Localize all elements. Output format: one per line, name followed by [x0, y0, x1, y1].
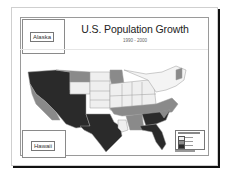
legend-item-medium — [178, 140, 200, 143]
map-subtitle: 1990 - 2000 — [80, 38, 190, 43]
map-title: U.S. Population Growth — [80, 23, 190, 35]
legend-item-low — [178, 136, 200, 139]
hawaii-label: Hawaii — [31, 141, 55, 151]
legend-title — [178, 132, 200, 134]
legend-swatch-high — [178, 144, 185, 149]
source-note — [175, 150, 195, 152]
map-legend — [175, 130, 205, 150]
hawaii-inset-frame: Hawaii — [22, 130, 66, 158]
alaska-label: Alaska — [30, 32, 54, 42]
legend-item-high — [178, 144, 200, 147]
title-divider — [20, 49, 208, 50]
